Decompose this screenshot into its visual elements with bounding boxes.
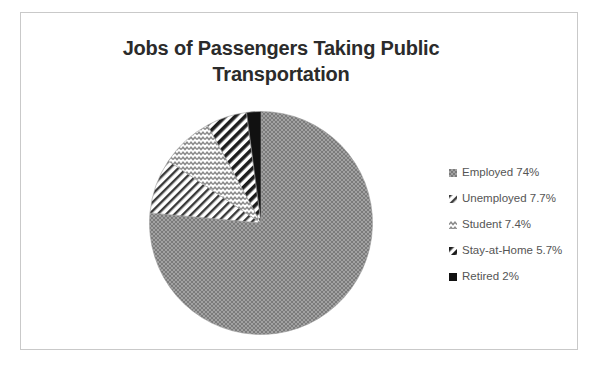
legend-swatch-stay-at-home-icon	[449, 247, 457, 255]
legend-swatch-student-icon	[449, 221, 457, 229]
legend-label-retired: Retired 2%	[462, 271, 519, 283]
pie-slices	[149, 112, 372, 335]
legend-item-employed[interactable]: Employed 74%	[449, 160, 571, 186]
legend-item-stay-at-home[interactable]: Stay-at-Home 5.7%	[449, 238, 571, 264]
legend-item-student[interactable]: Student 7.4%	[449, 212, 571, 238]
legend-swatch-retired-icon	[449, 273, 457, 281]
chart-legend: Employed 74%Unemployed 7.7%Student 7.4%S…	[449, 160, 571, 290]
chart-title: Jobs of Passengers Taking Public Transpo…	[81, 35, 481, 88]
legend-swatch-employed-icon	[449, 169, 457, 177]
legend-label-unemployed: Unemployed 7.7%	[462, 193, 556, 205]
chart-title-line-1: Jobs of Passengers Taking Public	[123, 37, 440, 59]
legend-label-stay-at-home: Stay-at-Home 5.7%	[462, 245, 562, 257]
chart-title-line-2: Transportation	[212, 63, 349, 85]
legend-item-retired[interactable]: Retired 2%	[449, 264, 571, 290]
legend-label-student: Student 7.4%	[462, 219, 531, 231]
pie-chart-svg	[149, 111, 373, 335]
pie-chart	[149, 111, 373, 335]
legend-swatch-unemployed-icon	[449, 195, 457, 203]
legend-label-employed: Employed 74%	[462, 167, 539, 179]
chart-screenshot: Jobs of Passengers Taking Public Transpo…	[0, 0, 597, 368]
legend-item-unemployed[interactable]: Unemployed 7.7%	[449, 186, 571, 212]
